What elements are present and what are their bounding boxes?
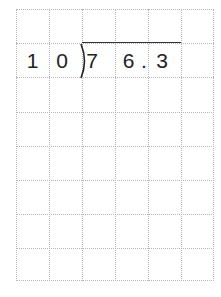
- grid-line: [16, 112, 214, 113]
- divisor-digit: 1: [16, 44, 49, 78]
- dividend-digit: 3: [149, 44, 175, 78]
- divisor-digit: 0: [49, 44, 75, 78]
- grid-line: [16, 146, 214, 147]
- division-vinculum: [82, 42, 181, 43]
- grid-line: [16, 280, 214, 281]
- grid-line: [16, 180, 214, 181]
- grid-line: [16, 214, 214, 215]
- grid-line: [16, 248, 214, 249]
- dividend-digit: 7: [82, 44, 102, 78]
- grid-line: [213, 9, 214, 281]
- grid-line: [16, 9, 214, 10]
- grid-line: [181, 9, 182, 281]
